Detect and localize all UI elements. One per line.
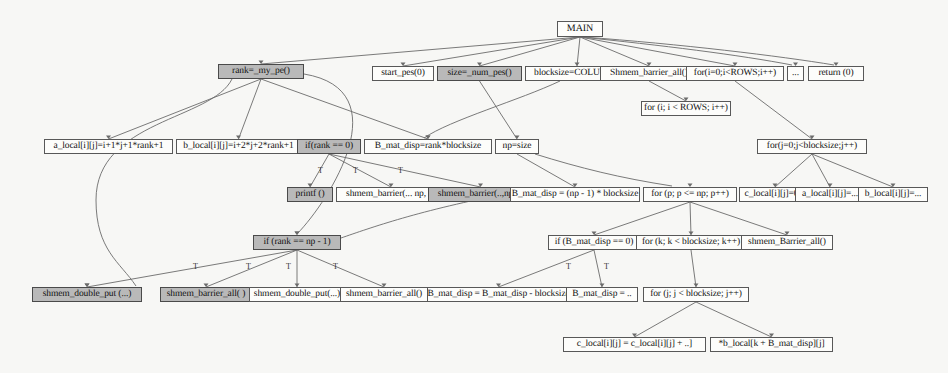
edge-label-3: T [333, 262, 338, 271]
edge-label-6: T [398, 166, 403, 175]
edge-for_p-to-if_bmat_zero [594, 202, 690, 235]
node-start_pes[interactable]: start_pes(0) [372, 66, 434, 81]
edge-for_j_blocksize_bot-to-b_local_idx [696, 302, 772, 337]
edge-for_i_rows_top-to-for_j_blocksize_top [735, 81, 812, 139]
edge-label-5: T [353, 166, 358, 175]
node-for_j_blocksize_top[interactable]: for(j=0;j<blocksize;j++) [757, 139, 867, 154]
node-np_size[interactable]: np=size [495, 139, 539, 154]
node-bmat_minus[interactable]: B_mat_disp = B_mat_disp - blocksize [427, 287, 570, 302]
edge-label-2: T [286, 262, 291, 271]
edge-main-to-return0 [583, 37, 834, 65]
edge-if_rank_0-to-shmem_barrier_np2 [329, 154, 481, 187]
node-for_k[interactable]: for (k; k < blocksize; k++) [636, 235, 746, 250]
node-for_i_rows_mid[interactable]: for (i; i < ROWS; i++) [641, 101, 731, 116]
edge-np_size-to-b_mat_disp_np1 [517, 154, 575, 187]
edge-if_rank_0-to-printf [310, 154, 329, 187]
edge-for_j_blocksize_bot-to-c_local_accum [635, 302, 697, 337]
edge-label-7: T [566, 262, 571, 271]
node-for_p[interactable]: for (p; p <= np; p++) [643, 187, 737, 202]
edge-rank_my_pe-to-shmem_double_put_left [96, 79, 232, 286]
node-shmem_barrier_all_b3[interactable]: shmem_barrier_all() [340, 287, 428, 302]
node-size_num_pes[interactable]: size=_num_pes() [437, 66, 522, 81]
edge-if_rank_np1-to-shmem_barrier_all_b3 [297, 250, 384, 287]
edge-label-8: T [604, 262, 609, 271]
edge-if_rank_0-to-shmem_barrier_np1 [329, 154, 391, 187]
node-main[interactable]: MAIN [557, 21, 603, 37]
node-shmem_barrier_all_mid[interactable]: shmem_Barrier_all() [741, 235, 833, 250]
edge-main-to-blocksize_cols [577, 37, 580, 66]
node-return0[interactable]: return (0) [808, 66, 864, 81]
node-a_local_dots[interactable]: a_local[i][j]=... [795, 187, 865, 202]
edge-for_j_blocksize_top-to-c_local_zero [775, 154, 812, 187]
edge-rank_my_pe-to-b_mat_disp_rank [261, 79, 428, 139]
edge-shmem_barrier_all_top-to-for_i_rows_mid [649, 81, 686, 101]
edge-rank_my_pe-to-b_local_init [239, 79, 262, 139]
node-for_i_rows_top[interactable]: for(i=0;i<ROWS;i++) [686, 66, 784, 81]
node-if_bmat_zero[interactable]: if (B_mat_disp == 0) [548, 235, 640, 250]
node-ellipsis_top[interactable]: ... [787, 66, 804, 81]
node-shmem_barrier_all_b1[interactable]: shmem_barrier_all( ) [160, 287, 252, 302]
edge-label-0: T [193, 262, 198, 271]
node-b_local_dots[interactable]: b_local[i][j]=... [858, 187, 928, 202]
edge-label-4: T [318, 166, 323, 175]
edge-main-to-for_i_rows_top [580, 37, 735, 66]
edge-for_k-to-for_j_blocksize_bot [691, 250, 696, 287]
edge-main-to-ellipsis_top [580, 37, 792, 65]
node-b_local_init[interactable]: b_local[i][j]=i+2*j+2*rank+1 [176, 139, 301, 154]
edge-main-to-start_pes [403, 37, 580, 66]
node-for_j_blocksize_bot[interactable]: for (j; j < blocksize; j++) [643, 287, 749, 302]
edge-for_j_blocksize_top-to-a_local_dots [812, 154, 830, 187]
node-a_local_init[interactable]: a_local[i][j]=i+1*j+1*rank+1 [44, 139, 173, 154]
edge-main-to-size_num_pes [480, 37, 581, 66]
node-b_local_idx[interactable]: *b_local[k + B_mat_disp][j] [710, 337, 833, 352]
node-b_mat_disp_rank[interactable]: B_mat_disp=rank*blocksize [364, 139, 492, 154]
node-shmem_barrier_all_top[interactable]: Shmem_barrier_all() [600, 66, 698, 81]
edge-main-to-rank_my_pe [261, 37, 580, 64]
edge-blocksize_cols-to-b_mat_disp_rank [424, 81, 560, 138]
edge-rank_my_pe-to-if_rank_np1 [297, 74, 353, 234]
node-printf[interactable]: printf () [287, 187, 333, 202]
node-rank_my_pe[interactable]: rank=_my_pe() [218, 64, 304, 79]
node-if_rank_0[interactable]: if(rank == 0) [297, 139, 361, 154]
edge-if_bmat_zero-to-bmat_dots [594, 250, 602, 287]
edge-np_size-to-for_p [535, 154, 672, 186]
node-shmem_double_put_left[interactable]: shmem_double_put (...) [32, 287, 142, 302]
edge-if_rank_np1-to-shmem_double_put_left [87, 250, 297, 287]
edge-rank_my_pe-to-a_local_init [109, 79, 262, 139]
edge-for_p-to-shmem_barrier_all_mid [690, 202, 787, 235]
edge-if_bmat_zero-to-bmat_minus [499, 250, 595, 287]
node-b_mat_disp_np1[interactable]: B_mat_disp = (np - 1) * blocksize [510, 187, 640, 202]
flow-graph-canvas: MAINrank=_my_pe()start_pes(0)size=_num_p… [0, 0, 948, 373]
edge-for_j_blocksize_top-to-b_local_dots [812, 154, 893, 187]
edge-size_num_pes-to-np_size [480, 81, 518, 139]
node-shmem_double_put_b2[interactable]: shmem_double_put(...) [249, 287, 345, 302]
node-c_local_accum[interactable]: c_local[i][j] = c_local[i][j] + ..] [563, 337, 706, 352]
edge-if_rank_np1-to-shmem_barrier_all_b1 [206, 250, 297, 287]
node-bmat_dots[interactable]: B_mat_disp = .. [566, 287, 638, 302]
node-if_rank_np1[interactable]: if (rank == np - 1) [253, 235, 341, 250]
edge-for_p-to-for_k [690, 202, 691, 235]
edge-main-to-shmem_barrier_all_top [580, 37, 649, 66]
edge-label-1: T [246, 262, 251, 271]
